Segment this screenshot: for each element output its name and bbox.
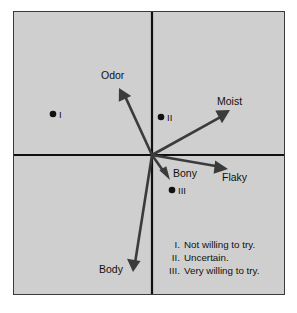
vector-label-moist: Moist — [217, 96, 242, 107]
vector-body-arrowhead — [127, 259, 141, 272]
data-point-label-iii: III — [178, 186, 186, 196]
legend-text-iii: Very willing to try. — [184, 264, 260, 277]
vector-label-bony: Bony — [173, 168, 197, 179]
vector-odor — [119, 88, 152, 155]
legend-item-iii: III. Very willing to try. — [160, 264, 260, 277]
legend-numeral-ii: II. — [160, 251, 184, 264]
vector-odor-arrowhead — [119, 88, 131, 102]
legend-numeral-i: I. — [160, 238, 184, 251]
legend-numeral-iii: III. — [160, 264, 184, 277]
data-point-i — [50, 111, 57, 118]
vector-body-shaft — [135, 155, 152, 263]
data-point-label-i: I — [59, 110, 62, 120]
data-point-label-ii: II — [167, 113, 172, 123]
vector-moist-arrowhead — [215, 110, 230, 123]
vector-moist-shaft — [152, 116, 223, 155]
vector-label-body: Body — [99, 264, 123, 275]
data-point-ii — [158, 114, 165, 121]
legend-text-i: Not willing to try. — [184, 238, 255, 251]
vector-label-flaky: Flaky — [222, 172, 247, 183]
vector-flaky-shaft — [152, 155, 220, 167]
legend-text-ii: Uncertain. — [184, 251, 229, 264]
legend-item-ii: II. Uncertain. — [160, 251, 260, 264]
data-point-iii — [169, 187, 176, 194]
perceptual-map-figure: Odor Moist Flaky Bony Body I II III I. N… — [0, 0, 297, 313]
vector-body — [127, 155, 152, 272]
legend-item-i: I. Not willing to try. — [160, 238, 260, 251]
vector-label-odor: Odor — [101, 70, 124, 81]
legend: I. Not willing to try. II. Uncertain. II… — [160, 238, 260, 278]
vector-odor-shaft — [124, 95, 152, 155]
